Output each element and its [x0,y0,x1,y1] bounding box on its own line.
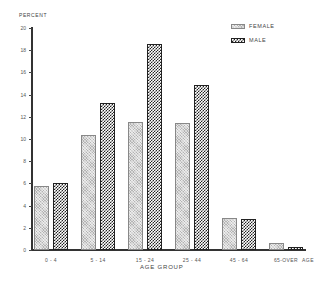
y-axis-title: PERCENT [19,12,47,18]
y-tick-mark [29,28,32,29]
bar-male-0 [53,183,68,250]
x-axis-title: AGE GROUP [140,264,184,270]
x-axis-end-label: AGE [296,257,320,263]
y-tick-mark [29,50,32,51]
y-tick-mark [29,183,32,184]
x-tick-label: 5 - 14 [78,257,118,263]
bar-female-0 [34,186,49,250]
y-tick-mark [29,206,32,207]
y-tick-label: 20 [12,25,26,31]
y-tick-mark [29,95,32,96]
x-tick-label: 0 - 4 [31,257,71,263]
y-tick-mark [29,228,32,229]
legend-male-swatch [231,38,245,43]
x-axis-line [31,249,306,251]
bar-male-4 [241,219,256,250]
bar-female-3 [175,123,190,250]
y-tick-label: 16 [12,69,26,75]
legend-male-label: MALE [249,37,266,43]
y-tick-mark [29,72,32,73]
y-tick-label: 6 [12,180,26,186]
x-tick-label: 25 - 44 [172,257,212,263]
y-tick-label: 10 [12,136,26,142]
y-tick-mark [29,161,32,162]
y-tick-label: 18 [12,47,26,53]
x-tick-label: 15 - 24 [125,257,165,263]
bar-male-3 [194,85,209,250]
y-tick-mark [29,139,32,140]
bar-female-2 [128,122,143,250]
bar-female-4 [222,218,237,250]
bar-male-1 [100,103,115,250]
y-tick-label: 0 [12,247,26,253]
y-tick-label: 12 [12,114,26,120]
bar-chart: PERCENT 02468101214161820 0 - 45 - 1415 … [0,0,332,287]
y-tick-mark [29,250,32,251]
y-tick-label: 14 [12,92,26,98]
bar-female-5 [269,243,284,250]
y-tick-mark [29,117,32,118]
y-tick-label: 2 [12,225,26,231]
legend-female-label: FEMALE [249,23,275,29]
x-tick-label: 45 - 64 [219,257,259,263]
legend-female-swatch [231,24,245,29]
bar-female-1 [81,135,96,250]
bar-male-2 [147,44,162,250]
y-tick-label: 8 [12,158,26,164]
y-tick-label: 4 [12,203,26,209]
bar-male-5 [288,247,303,250]
